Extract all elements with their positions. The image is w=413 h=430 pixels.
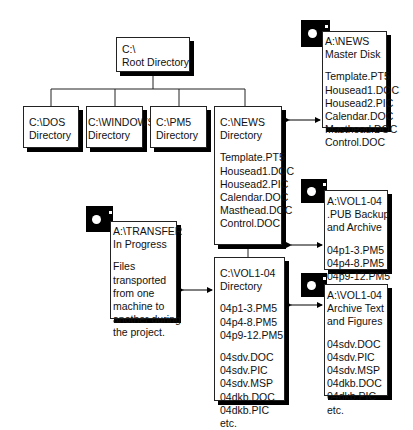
disk-transfer-desc: from one [113,287,176,300]
pm5-directory-node: C:\PM5 Directory [150,106,207,148]
disk-archive-file: 04sdv.PIC [327,351,387,364]
vol-file: 04sdv.PIC [220,364,284,377]
news-file: Calendar.DOC [220,191,281,204]
vol-file: 04p1-3.PM5 [220,302,284,315]
disk-news-file: Housead2.PIC [325,97,386,110]
disk-news-file: Template.PT5 [325,70,386,83]
disk-transfer-desc: another during [113,313,176,326]
root-directory-node: C:\ Root Directory [116,37,190,72]
vol-file: 04dkb.PIC [220,404,284,417]
news-master-disk-node: A:\NEWS Master Disk Template.PT5 Housead… [322,31,387,128]
vol-path: C:\VOL1-04 [220,267,284,280]
root-label: Root Directory [122,56,189,69]
windows-directory-node: C:\WINDOWS Directory [86,106,143,148]
disk-archive-file: 04sdv.DOC [327,338,387,351]
disk-archive-file: 04dkb.DOC [327,377,387,390]
disk-pub-label: and Archive [327,221,387,234]
disk-transfer-desc: transported [113,274,176,287]
disk-archive-path: A:\VOL1-04 [327,289,387,302]
dos-directory-node: C:\DOS Directory [23,106,79,148]
disk-archive-label: Archive Text [327,302,387,315]
vol-label: Directory [220,280,284,293]
vol-file: 04sdv.MSP [220,377,284,390]
disk-transfer-label: In Progress [113,238,176,251]
disk-transfer-desc: machine to [113,300,176,313]
news-path: C:\NEWS [220,116,281,129]
dos-label: Directory [29,129,78,142]
pm5-path: C:\PM5 [156,116,206,129]
vol1-04-directory-node: C:\VOL1-04 Directory 04p1-3.PM5 04p4-8.P… [214,257,285,401]
news-file: Template.PT5 [220,151,281,164]
pm5-label: Directory [156,129,206,142]
disk-news-file: Calendar.DOC [325,110,386,123]
news-file: Control.DOC [220,217,281,230]
vol-file: 04p4-8.PM5 [220,316,284,329]
disk-transfer-path: A:\TRANSFER [113,225,176,238]
transfer-disk-node: A:\TRANSFER In Progress Files transporte… [110,221,177,319]
news-file: Masthead.DOC [220,204,281,217]
dos-path: C:\DOS [29,116,78,129]
disk-pub-file: 04p9-12.PM5 [327,270,387,283]
windows-label: Directory [88,129,142,142]
vol-file: 04dkb.DOC [220,391,284,404]
disk-news-file: Control.DOC [325,136,386,149]
floppy-disk-icon [86,206,113,232]
disk-pub-file: 04p1-3.PM5 [327,244,387,257]
vol-file: etc. [220,417,284,430]
windows-path: C:\WINDOWS [88,116,142,129]
news-directory-node: C:\NEWS Directory Template.PT5 Housead1.… [214,106,282,245]
vol-file: 04p9-12.PM5 [220,329,284,342]
pub-backup-disk-node: A:\VOL1-04 .PUB Backup and Archive 04p1-… [324,190,388,270]
disk-news-path: A:\NEWS [325,35,386,48]
disk-archive-file: 04sdv.MSP [327,364,387,377]
disk-archive-file: etc. [327,404,387,417]
news-label: Directory [220,129,281,142]
disk-news-file: Housead1.DOC [325,84,386,97]
disk-transfer-desc: Files [113,260,176,273]
disk-pub-path: A:\VOL1-04 [327,195,387,208]
disk-transfer-desc: the project. [113,326,176,339]
news-file: Housead2.PIC [220,178,281,191]
news-file: Housead1.DOC [220,165,281,178]
archive-disk-node: A:\VOL1-04 Archive Text and Figures 04sd… [324,284,388,396]
disk-archive-file: 04dkb.PIC [327,390,387,403]
root-path: C:\ [122,43,189,56]
vol-file: 04sdv.DOC [220,351,284,364]
disk-news-label: Master Disk [325,48,386,61]
disk-pub-label: .PUB Backup [327,208,387,221]
disk-archive-label: and Figures [327,315,387,328]
disk-news-file: Masthead.DOC [325,123,386,136]
disk-pub-file: 04p4-8.PM5 [327,257,387,270]
